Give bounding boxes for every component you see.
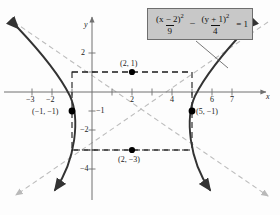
point-label-neg1-neg1: (−1, −1) bbox=[32, 107, 58, 116]
point-label-2-1: (2, 1) bbox=[120, 59, 137, 68]
equation-operator: − bbox=[190, 19, 196, 29]
x-tick-label-6: 6 bbox=[210, 95, 214, 104]
point-5-neg1 bbox=[189, 108, 196, 115]
hyperbola-figure: (x − 2)2 9 − (y + 1)2 4 = 1 y x −3 −2 2 … bbox=[0, 0, 280, 215]
fraction-x-numerator: (x − 2)2 bbox=[154, 13, 186, 25]
y-axis-label: y bbox=[84, 20, 88, 29]
y-axis bbox=[89, 17, 96, 200]
equation-right-hand-side: = 1 bbox=[236, 20, 248, 29]
y-tick-label-neg4: −4 bbox=[80, 164, 89, 173]
x-tick-label-neg2: −2 bbox=[46, 95, 55, 104]
point-neg1-neg1 bbox=[69, 108, 76, 115]
x-tick-label-2: 2 bbox=[130, 95, 134, 104]
equation-callout-box: (x − 2)2 9 − (y + 1)2 4 = 1 bbox=[147, 8, 253, 40]
y-tick-label-2: 2 bbox=[81, 48, 85, 57]
fraction-y-term: (y + 1)2 4 bbox=[199, 13, 231, 36]
x-tick-label-7: 7 bbox=[230, 95, 234, 104]
equation-expression: (x − 2)2 9 − (y + 1)2 4 = 1 bbox=[152, 13, 248, 36]
y-tick-label-neg1: −1 bbox=[96, 106, 105, 115]
fraction-x-denominator: 9 bbox=[166, 25, 175, 36]
x-tick-label-4: 4 bbox=[170, 95, 174, 104]
point-label-2-neg3: (2, −3) bbox=[118, 155, 140, 164]
fraction-y-numerator: (y + 1)2 bbox=[199, 13, 231, 25]
fraction-x-term: (x − 2)2 9 bbox=[154, 13, 186, 36]
point-2-neg3 bbox=[129, 147, 135, 153]
x-axis bbox=[4, 89, 266, 96]
x-tick-label-neg3: −3 bbox=[26, 95, 35, 104]
point-label-5-neg1: (5, −1) bbox=[196, 107, 218, 116]
fraction-y-denominator: 4 bbox=[211, 25, 220, 36]
point-2-1 bbox=[129, 69, 135, 75]
x-axis-label: x bbox=[266, 92, 270, 101]
y-tick-label-neg2: −2 bbox=[80, 125, 89, 134]
